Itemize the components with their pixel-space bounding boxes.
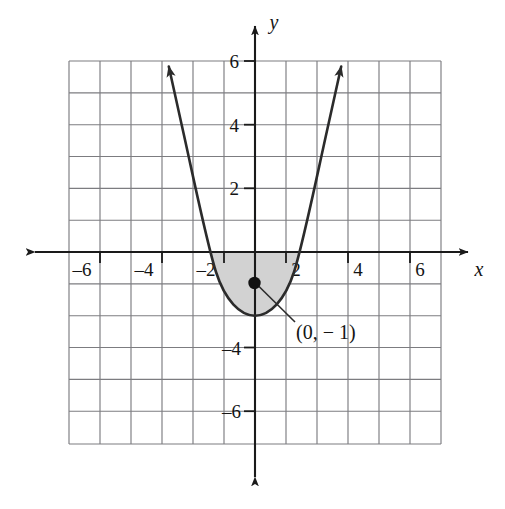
x-axis-label: x [474, 258, 484, 280]
y-tick-label-2: 2 [230, 178, 240, 199]
y-tick-label-6: 6 [230, 51, 240, 72]
x-tick-label-6: 6 [415, 259, 425, 280]
y-tick-label--6: –6 [221, 401, 241, 422]
y-tick-label--4: –4 [221, 338, 242, 359]
coordinate-plane-svg: –6 –4 –2 2 4 6 6 4 2 –4 –6 x y (0, − 1) [0, 0, 505, 509]
y-tick-label-4: 4 [230, 115, 240, 136]
y-axis-label: y [268, 11, 279, 34]
x-tick-label--4: –4 [134, 259, 155, 280]
x-tick-label--6: –6 [72, 259, 92, 280]
point-marker-0--1 [248, 277, 260, 289]
annotation-label-0--1: (0, − 1) [296, 321, 356, 344]
x-tick-label-4: 4 [353, 259, 363, 280]
